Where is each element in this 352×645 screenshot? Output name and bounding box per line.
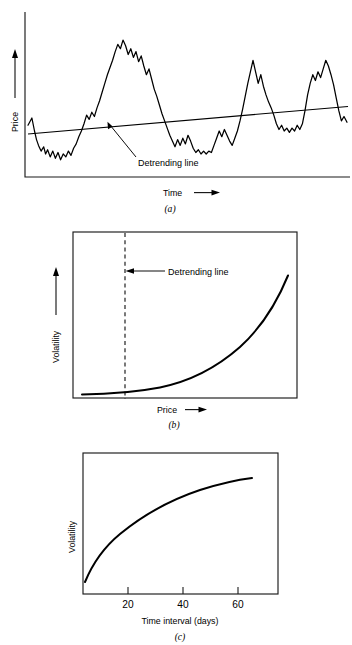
panel-a-price-series [28, 40, 347, 160]
panel-c: Volatility 20 40 60 Time interval (days)… [0, 430, 352, 645]
panel-b-yarrow-head [53, 267, 59, 276]
figure-root: Price Detrending line Time (a) [0, 0, 352, 645]
panel-b-annotation: Detrending line [126, 267, 229, 277]
panel-b-xarrow-head [199, 407, 208, 413]
panel-b-caption: (b) [168, 419, 179, 430]
panel-a-annotation-arrowhead [108, 122, 113, 129]
panel-c-volatility-curve [85, 478, 252, 582]
panel-c-ticklabel-40: 40 [177, 599, 189, 610]
panel-a-svg: Price Detrending line Time (a) [0, 0, 352, 215]
panel-a-annotation-label: Detrending line [138, 158, 199, 168]
panel-a-annotation: Detrending line [108, 122, 199, 168]
panel-b: Volatility Detrending line Price (b) [0, 215, 352, 430]
panel-b-svg: Volatility Detrending line Price (b) [0, 215, 352, 430]
panel-c-ticklabel-20: 20 [122, 599, 134, 610]
panel-b-volatility-curve [82, 276, 288, 395]
panel-b-xlabel-group: Price [157, 405, 207, 415]
panel-a-ylabel: Price [10, 112, 20, 132]
panel-b-xlabel: Price [157, 405, 177, 415]
panel-b-annotation-arrowhead [126, 268, 135, 274]
panel-c-caption: (c) [175, 631, 186, 643]
panel-a: Price Detrending line Time (a) [0, 0, 352, 215]
panel-a-annotation-leader [110, 125, 136, 157]
panel-a-axes [25, 12, 350, 177]
panel-b-ylabel: Volatility [51, 330, 61, 363]
panel-c-xlabel: Time interval (days) [142, 616, 219, 626]
panel-c-ylabel: Volatility [67, 520, 77, 553]
panel-b-frame [73, 232, 297, 398]
panel-a-xlabel: Time [163, 188, 182, 198]
panel-a-caption: (a) [164, 203, 175, 215]
panel-c-ticklabel-60: 60 [232, 599, 244, 610]
panel-b-annotation-label: Detrending line [168, 267, 229, 277]
panel-a-yarrow-head [12, 49, 18, 58]
panel-a-xlabel-group: Time [163, 188, 220, 198]
panel-b-ylabel-group: Volatility [51, 267, 61, 363]
panel-a-xarrow-head [212, 190, 221, 196]
panel-a-ylabel-group: Price [10, 49, 20, 132]
panel-c-svg: Volatility 20 40 60 Time interval (days)… [0, 430, 352, 645]
panel-c-xticks: 20 40 60 [122, 587, 244, 610]
panel-c-frame [83, 453, 278, 594]
